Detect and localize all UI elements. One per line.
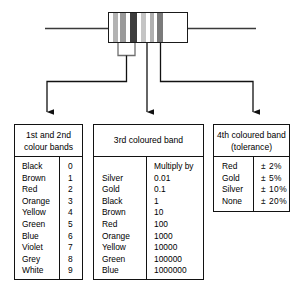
cell-colour: Blue	[22, 231, 59, 243]
cell-value: 4	[68, 207, 82, 219]
cell-value: ± 10%	[261, 184, 289, 196]
cell-colour: Red	[222, 161, 253, 173]
resistor-band-4	[141, 13, 146, 42]
cell-value: 3	[68, 196, 82, 208]
cell-value: 10	[154, 207, 203, 219]
cell-colour: Black	[102, 196, 146, 208]
cell-value: 1000000	[154, 265, 203, 277]
cell-value: 7	[68, 242, 82, 254]
cell-colour: Orange	[22, 196, 59, 208]
cell-colour: Red	[102, 219, 146, 231]
table-tolerance-header: 4th coloured band (tolerance)	[214, 125, 289, 157]
cell-value: 1000	[154, 231, 203, 243]
resistor-band-3	[130, 13, 137, 42]
table-tolerance-title-line1: 4th coloured band	[216, 130, 287, 142]
table-multiplier-title-line1: 3rd coloured band	[114, 135, 183, 147]
table-tolerance-title-line2: (tolerance)	[216, 142, 287, 154]
table-colours-value-column: 0 1 2 3 4 5 6 7 8 9	[59, 157, 82, 279]
table-colours-body: Black Brown Red Orange Yellow Green Blue…	[15, 157, 82, 279]
cell-value: 0.1	[154, 184, 203, 196]
cell-colour: Orange	[102, 231, 146, 243]
table-multiplier-value-header: Multiply by	[154, 161, 203, 173]
cell-value: 0.01	[154, 173, 203, 185]
cell-colour: Grey	[22, 254, 59, 266]
cell-value: 5	[68, 219, 82, 231]
table-colours-colour-column: Black Brown Red Orange Yellow Green Blue…	[15, 157, 59, 279]
table-multiplier-value-column: Multiply by 0.01 0.1 1 10 100 1000 10000…	[146, 157, 203, 279]
cell-colour: Violet	[22, 242, 59, 254]
connector-first-second-bands	[47, 56, 127, 113]
table-colours-title-line2: colour bands	[17, 142, 80, 154]
table-fourth-coloured-band-tolerance: 4th coloured band (tolerance) Red Gold S…	[213, 124, 290, 212]
cell-colour: Black	[22, 161, 59, 173]
table-multiplier-colour-column: Silver Gold Black Brown Red Orange Yello…	[94, 157, 146, 279]
cell-value: 10000	[154, 242, 203, 254]
connector-fourth-band	[161, 43, 254, 112]
table-colours-title-line1: 1st and 2nd	[17, 130, 80, 142]
table-third-coloured-band: 3rd coloured band Silver Gold Black Brow…	[93, 124, 204, 280]
resistor-band-5	[150, 13, 154, 42]
cell-colour: Silver	[222, 184, 253, 196]
cell-value: 1	[68, 173, 82, 185]
resistor-band-6	[157, 13, 163, 42]
cell-value: ± 20%	[261, 196, 289, 208]
cell-value: 1	[154, 196, 203, 208]
table-multiplier-body: Silver Gold Black Brown Red Orange Yello…	[94, 157, 203, 279]
cell-colour: Silver	[102, 173, 146, 185]
diagram-canvas: 1st and 2nd colour bands Black Brown Red…	[0, 0, 304, 286]
cell-colour: Yellow	[102, 242, 146, 254]
table-tolerance-colour-column: Red Gold Silver None	[214, 157, 253, 211]
cell-colour: Gold	[222, 173, 253, 185]
resistor-body	[108, 12, 188, 43]
cell-value: 0	[68, 161, 82, 173]
cell-value: 2	[68, 184, 82, 196]
cell-value: 100000	[154, 254, 203, 266]
cell-colour: White	[22, 265, 59, 277]
cell-colour: None	[222, 196, 253, 208]
cell-value: 8	[68, 254, 82, 266]
cell-colour: Brown	[102, 207, 146, 219]
cell-colour: Green	[102, 254, 146, 266]
cell-colour: Brown	[22, 173, 59, 185]
cell-value: ± 5%	[261, 173, 289, 185]
table-tolerance-body: Red Gold Silver None ± 2% ± 5% ± 10% ± 2…	[214, 157, 289, 211]
cell-colour: Yellow	[22, 207, 59, 219]
cell-value: 100	[154, 219, 203, 231]
cell-value: ± 2%	[261, 161, 289, 173]
resistor-band-2	[120, 13, 126, 42]
cell-colour: Green	[22, 219, 59, 231]
table-first-second-colour-bands: 1st and 2nd colour bands Black Brown Red…	[14, 124, 83, 280]
cell-value: 9	[68, 265, 82, 277]
cell-colour: Gold	[102, 184, 146, 196]
table-multiplier-header: 3rd coloured band	[94, 125, 203, 157]
cell-colour: Red	[22, 184, 59, 196]
table-tolerance-value-column: ± 2% ± 5% ± 10% ± 20%	[253, 157, 289, 211]
band-bracket	[118, 43, 135, 56]
table-colours-header: 1st and 2nd colour bands	[15, 125, 82, 157]
resistor-band-1	[113, 13, 118, 42]
cell-colour: Blue	[102, 265, 146, 277]
cell-value: 6	[68, 231, 82, 243]
